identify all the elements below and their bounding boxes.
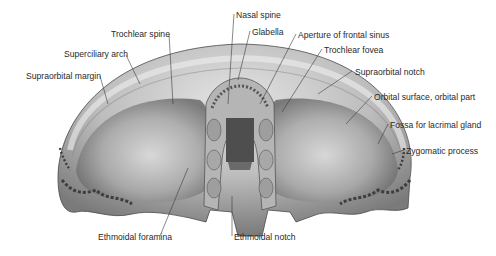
label-supraorbital-notch: Supraorbital notch bbox=[355, 67, 425, 77]
label-ethmoidal-notch: Ethmoidal notch bbox=[234, 232, 296, 242]
label-superciliary-arch: Superciliary arch bbox=[64, 49, 128, 59]
label-supraorbital-margin: Supraorbital margin bbox=[26, 71, 101, 81]
label-aperture-frontal-sinus: Aperture of frontal sinus bbox=[298, 30, 389, 40]
frontal-bone-figure: Nasal spine Trochlear spine Glabella Ape… bbox=[0, 0, 496, 256]
label-nasal-spine: Nasal spine bbox=[236, 10, 281, 20]
label-glabella: Glabella bbox=[252, 27, 284, 37]
label-fossa-lacrimal-gland: Fossa for lacrimal gland bbox=[390, 120, 481, 130]
label-orbital-surface: Orbital surface, orbital part bbox=[374, 92, 475, 102]
label-trochlear-spine: Trochlear spine bbox=[111, 29, 170, 39]
label-trochlear-fovea: Trochlear fovea bbox=[324, 45, 383, 55]
label-ethmoidal-foramina: Ethmoidal foramina bbox=[98, 232, 172, 242]
label-zygomatic-process: Zygomatic process bbox=[406, 146, 478, 156]
